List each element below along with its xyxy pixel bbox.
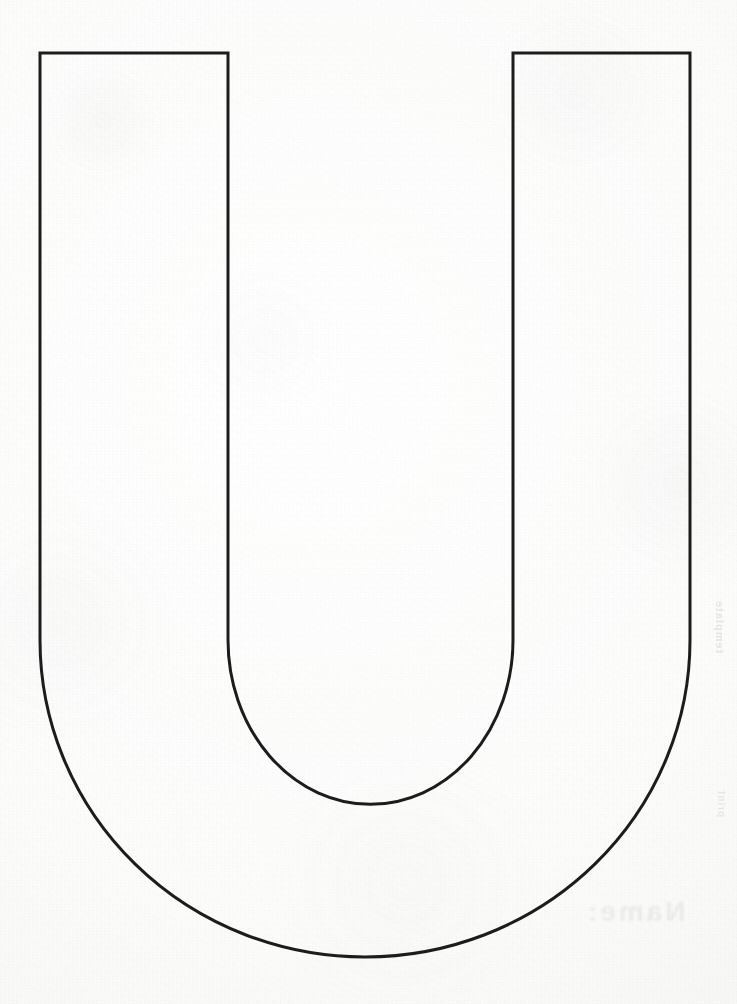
page-canvas: Uppercase letter U outline on blank pape… [0, 0, 737, 1004]
letter-u-outline-svg [0, 0, 737, 1004]
letter-u-outline-path [40, 53, 690, 957]
